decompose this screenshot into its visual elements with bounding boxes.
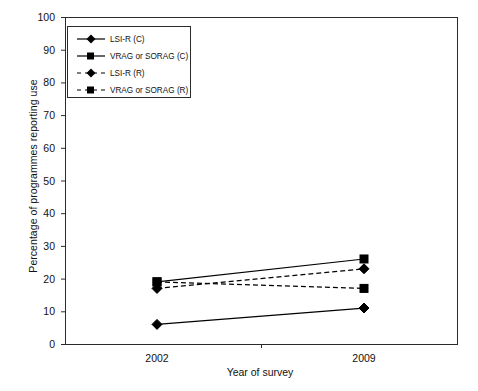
- series-line: [157, 259, 364, 282]
- legend-diamond-marker-icon: [76, 68, 106, 78]
- data-point-marker: [360, 284, 368, 292]
- line-chart: Percentage of programmes reporting use Y…: [0, 0, 478, 391]
- y-axis-tick-label: 0: [21, 339, 55, 350]
- y-axis-tick-label: 10: [21, 306, 55, 317]
- legend-diamond-marker-icon: [76, 34, 106, 44]
- x-axis-title: Year of survey: [60, 366, 460, 378]
- legend-item-label: VRAG or SORAG (R): [110, 86, 188, 95]
- legend-item: LSI-R (C): [68, 30, 192, 48]
- legend-item: VRAG or SORAG (R): [68, 81, 192, 99]
- y-axis-tick-label: 50: [21, 176, 55, 187]
- y-axis-tick-label: 20: [21, 274, 55, 285]
- y-axis-tick-label: 40: [21, 208, 55, 219]
- legend-item-label: VRAG or SORAG (C): [110, 52, 188, 61]
- y-axis-tick-label: 90: [21, 45, 55, 56]
- legend-item: LSI-R (R): [68, 64, 192, 82]
- data-point-marker: [359, 264, 369, 274]
- y-axis-tick-label: 80: [21, 77, 55, 88]
- legend-item: VRAG or SORAG (C): [68, 47, 192, 65]
- x-axis-tick-label: 2002: [127, 353, 187, 364]
- y-axis-tick-label: 100: [21, 12, 55, 23]
- legend: LSI-R (C)VRAG or SORAG (C)LSI-R (R)VRAG …: [67, 26, 191, 98]
- x-axis-tick-label: 2009: [334, 353, 394, 364]
- y-axis-tick-label: 30: [21, 241, 55, 252]
- y-axis-tick-label: 70: [21, 110, 55, 121]
- data-point-marker: [152, 319, 162, 329]
- data-point-marker: [153, 278, 161, 286]
- series-line: [157, 308, 364, 324]
- legend-square-marker-icon: [76, 85, 106, 95]
- legend-square-marker-icon: [76, 51, 106, 61]
- series-line: [157, 282, 364, 289]
- data-point-marker: [360, 255, 368, 263]
- data-point-marker: [359, 303, 369, 313]
- legend-item-label: LSI-R (R): [110, 69, 145, 78]
- y-axis-tick-label: 60: [21, 143, 55, 154]
- legend-item-label: LSI-R (C): [110, 35, 145, 44]
